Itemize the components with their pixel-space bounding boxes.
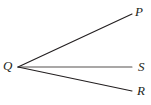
ray-endpoint-label-r: R [137,84,145,97]
ray-qr-line [18,67,132,91]
ray-endpoint-label-p: P [135,5,143,18]
angle-rays-svg [0,0,151,105]
ray-qp-line [18,14,132,67]
vertex-label-q: Q [3,59,12,72]
geometry-figure: Q P S R [0,0,151,105]
ray-endpoint-label-s: S [138,60,145,73]
